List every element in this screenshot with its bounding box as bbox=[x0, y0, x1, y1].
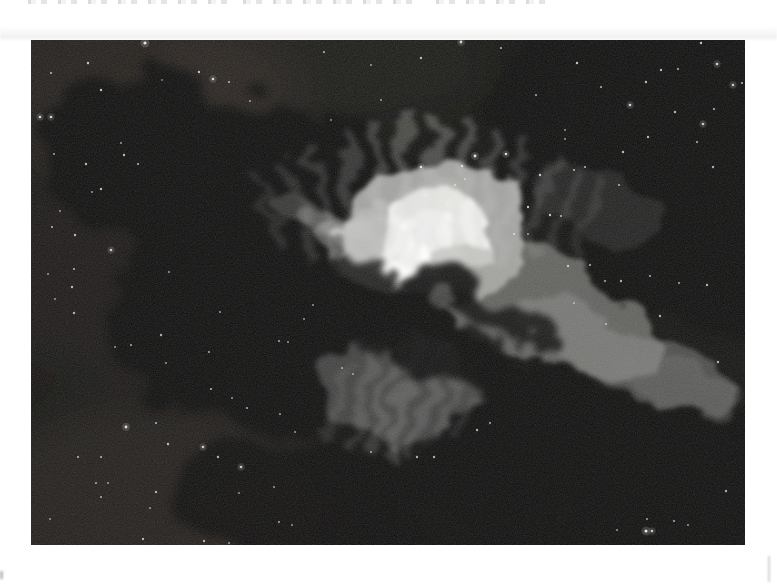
star bbox=[160, 334, 162, 336]
star bbox=[424, 194, 426, 196]
star bbox=[716, 63, 719, 66]
star bbox=[100, 188, 102, 190]
star bbox=[527, 206, 529, 208]
star bbox=[649, 275, 651, 277]
star bbox=[464, 178, 466, 180]
star bbox=[589, 264, 591, 266]
star bbox=[713, 108, 715, 110]
star bbox=[168, 271, 170, 273]
star bbox=[446, 203, 448, 205]
star bbox=[717, 361, 719, 363]
star bbox=[605, 323, 607, 325]
star bbox=[149, 507, 151, 509]
star bbox=[616, 529, 618, 531]
scan-shading bbox=[0, 26, 777, 40]
scan-artifact bbox=[768, 556, 770, 582]
star bbox=[678, 282, 680, 284]
cropped-text-fragment bbox=[28, 0, 228, 4]
star bbox=[155, 422, 157, 424]
star bbox=[567, 265, 569, 267]
star bbox=[549, 214, 551, 216]
star bbox=[287, 341, 289, 343]
star bbox=[95, 482, 97, 484]
star bbox=[49, 518, 51, 520]
star bbox=[51, 226, 53, 228]
cropped-text-fragment bbox=[243, 0, 423, 4]
star bbox=[323, 51, 325, 53]
star bbox=[647, 136, 649, 138]
star bbox=[573, 169, 575, 171]
star bbox=[604, 280, 606, 282]
star bbox=[137, 163, 139, 165]
star bbox=[706, 284, 708, 286]
star bbox=[240, 466, 243, 469]
star bbox=[725, 490, 727, 492]
star bbox=[646, 518, 648, 520]
star bbox=[696, 141, 698, 143]
star bbox=[228, 81, 230, 83]
star bbox=[712, 166, 714, 168]
star bbox=[198, 71, 200, 73]
star bbox=[100, 456, 102, 458]
star bbox=[228, 542, 230, 544]
star bbox=[687, 524, 689, 526]
star bbox=[673, 520, 675, 522]
film-grain bbox=[31, 40, 745, 545]
star bbox=[210, 388, 212, 390]
star bbox=[238, 492, 240, 494]
star bbox=[576, 62, 578, 64]
star bbox=[53, 153, 55, 155]
star bbox=[125, 426, 128, 429]
star bbox=[741, 82, 743, 84]
star bbox=[644, 529, 647, 532]
star bbox=[564, 138, 566, 140]
star bbox=[416, 456, 418, 458]
star bbox=[454, 184, 456, 186]
nebula-photograph bbox=[31, 40, 745, 545]
star bbox=[91, 191, 93, 193]
star bbox=[47, 273, 49, 275]
star bbox=[294, 431, 296, 433]
cropped-text-fragment bbox=[436, 0, 556, 4]
star bbox=[370, 64, 372, 66]
star bbox=[370, 451, 372, 453]
star bbox=[513, 233, 515, 235]
star bbox=[651, 530, 654, 533]
star bbox=[110, 249, 113, 252]
star bbox=[674, 111, 676, 113]
nebula-photo-canvas bbox=[31, 40, 745, 545]
star bbox=[114, 346, 116, 348]
star bbox=[100, 89, 102, 91]
star bbox=[622, 151, 624, 153]
star bbox=[420, 166, 423, 169]
star bbox=[618, 184, 620, 186]
star bbox=[291, 524, 293, 526]
star bbox=[312, 304, 314, 306]
star bbox=[474, 155, 477, 158]
star bbox=[123, 154, 125, 156]
star bbox=[279, 413, 281, 415]
star bbox=[71, 286, 73, 288]
star bbox=[330, 119, 332, 121]
star bbox=[208, 351, 210, 353]
star bbox=[420, 57, 422, 59]
star bbox=[535, 94, 537, 96]
star bbox=[573, 302, 575, 304]
star bbox=[620, 280, 622, 282]
star bbox=[505, 153, 508, 156]
star bbox=[39, 116, 42, 119]
star bbox=[73, 268, 75, 270]
star bbox=[527, 233, 529, 235]
star bbox=[50, 116, 53, 119]
star bbox=[100, 496, 102, 498]
star bbox=[50, 72, 52, 74]
star bbox=[143, 41, 146, 44]
star bbox=[564, 129, 566, 131]
star bbox=[202, 446, 205, 449]
star bbox=[600, 86, 602, 88]
star bbox=[217, 456, 219, 458]
star bbox=[645, 81, 647, 83]
star bbox=[341, 367, 343, 369]
star bbox=[702, 123, 705, 126]
star bbox=[539, 174, 541, 176]
